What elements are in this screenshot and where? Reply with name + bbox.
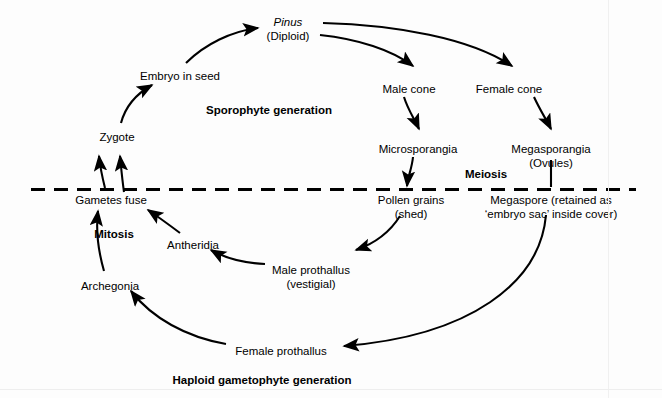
node-embryo-in-seed: Embryo in seed <box>140 70 220 84</box>
node-archegonia-label: Archegonia <box>81 280 139 292</box>
node-pollen-grains: Pollen grains (shed) <box>378 194 444 221</box>
edge-male-prothallus-to-antheridia <box>211 250 265 264</box>
node-pinus-label: Pinus <box>274 16 303 28</box>
label-sporophyte-generation-text: Sporophyte generation <box>206 104 332 116</box>
node-antheridia-label: Antheridia <box>167 239 219 251</box>
edge-female-cone-to-megasporangia <box>534 97 551 129</box>
node-male-prothallus: Male prothallus (vestigial) <box>272 264 350 291</box>
label-meiosis-text: Meiosis <box>465 168 507 180</box>
node-gametes-fuse-label: Gametes fuse <box>75 194 147 206</box>
node-female-cone-label: Female cone <box>476 83 542 95</box>
edge-zygote-to-embryo-in-seed <box>121 85 152 123</box>
label-meiosis: Meiosis <box>465 168 507 182</box>
label-haploid-gametophyte-generation-text: Haploid gametophyte generation <box>173 374 352 386</box>
node-zygote: Zygote <box>99 131 134 145</box>
node-female-prothallus: Female prothallus <box>235 345 326 359</box>
label-mitosis: Mitosis <box>94 228 134 242</box>
pinus-life-cycle-diagram: Pinus (Diploid) Embryo in seed Male cone… <box>0 0 662 398</box>
edge-pollen-grains-to-male-prothallus <box>356 216 400 250</box>
node-archegonia: Archegonia <box>81 280 139 294</box>
node-pollen-grains-sublabel: (shed) <box>378 208 444 222</box>
node-megaspore-sublabel: ‘embryo sac’ inside cover) <box>485 208 618 222</box>
node-microsporangia-label: Microsporangia <box>379 143 458 155</box>
edge-megaspore-to-female-prothallus <box>344 215 546 346</box>
node-female-cone: Female cone <box>476 83 542 97</box>
node-pinus-sublabel: (Diploid) <box>267 30 310 44</box>
edge-pinus-to-female-cone <box>323 23 512 66</box>
node-megaspore-label: Megaspore (retained as <box>490 194 611 206</box>
node-pinus: Pinus (Diploid) <box>267 16 310 43</box>
node-male-cone-label: Male cone <box>382 83 435 95</box>
node-male-prothallus-label: Male prothallus <box>272 264 350 276</box>
node-megaspore: Megaspore (retained as ‘embryo sac’ insi… <box>485 194 618 221</box>
node-zygote-label: Zygote <box>99 131 134 143</box>
page-right-edge-line <box>608 0 609 398</box>
node-megasporangia-label: Megasporangia <box>511 143 590 155</box>
node-microsporangia: Microsporangia <box>379 143 458 157</box>
node-embryo-in-seed-label: Embryo in seed <box>140 70 220 82</box>
edge-gametes-fuse-to-zygote-right <box>120 156 124 192</box>
edge-embryo-to-pinus <box>186 28 258 63</box>
node-megasporangia: Megasporangia (Ovules) <box>511 143 590 170</box>
edge-female-prothallus-to-archegonia <box>131 291 226 344</box>
node-pollen-grains-label: Pollen grains <box>378 194 444 206</box>
edge-male-cone-to-microsporangia <box>404 97 419 129</box>
edge-microsporangia-to-pollen-grains <box>407 157 413 186</box>
edge-pinus-to-male-cone <box>320 35 413 66</box>
node-megasporangia-sublabel: (Ovules) <box>511 157 590 171</box>
edge-gametes-fuse-to-zygote-left <box>99 156 105 188</box>
node-male-cone: Male cone <box>382 83 435 97</box>
edge-antheridia-to-gametes-fuse <box>148 210 180 233</box>
node-female-prothallus-label: Female prothallus <box>235 345 326 357</box>
node-gametes-fuse: Gametes fuse <box>75 194 147 208</box>
node-male-prothallus-sublabel: (vestigial) <box>272 278 350 292</box>
label-haploid-gametophyte-generation: Haploid gametophyte generation <box>173 374 352 388</box>
node-antheridia: Antheridia <box>167 239 219 253</box>
label-mitosis-text: Mitosis <box>94 228 134 240</box>
page-bottom-edge-line <box>0 389 662 390</box>
label-sporophyte-generation: Sporophyte generation <box>206 104 332 118</box>
